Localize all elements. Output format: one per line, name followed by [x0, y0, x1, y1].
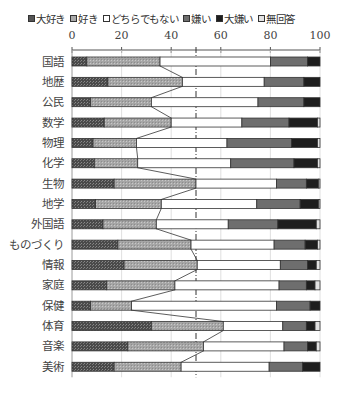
bar-segment	[305, 240, 317, 249]
bar-segment	[181, 362, 269, 371]
bar-segment	[151, 98, 258, 107]
category-label: 保健	[42, 299, 65, 313]
bar-segment	[242, 118, 289, 127]
x-tick-label: 80	[263, 29, 277, 42]
bar-segment	[308, 342, 317, 351]
bar-segment	[306, 281, 315, 290]
bar-segment	[283, 322, 307, 331]
bar-segment	[191, 240, 274, 249]
bar-segment	[72, 301, 91, 310]
bar-segment	[114, 362, 181, 371]
bar-segment	[91, 98, 152, 107]
bar-segment	[258, 98, 304, 107]
bar-segment	[72, 199, 96, 208]
bar-segment	[277, 179, 307, 188]
bar-segment	[128, 342, 204, 351]
bar-segment	[280, 261, 307, 270]
bar-segment	[277, 301, 310, 310]
bar-segment	[171, 118, 242, 127]
bar-segment	[318, 159, 320, 168]
bar-segment	[72, 77, 108, 86]
category-label: 公民	[42, 95, 64, 109]
bar-segment	[270, 57, 307, 66]
category-label: 国語	[42, 55, 65, 69]
bar-segment	[108, 77, 182, 86]
bar-segment	[279, 281, 306, 290]
bar-segment	[151, 322, 223, 331]
x-tick-label: 100	[310, 29, 331, 42]
bar-segment	[318, 240, 320, 249]
bar-segment	[72, 179, 114, 188]
bar-segment	[72, 261, 124, 270]
bar-segment	[72, 159, 94, 168]
bar-segment	[72, 138, 93, 147]
bar-segment	[72, 240, 118, 249]
bar-segment	[274, 240, 305, 249]
category-label: 家庭	[42, 278, 65, 292]
bar-segment	[197, 261, 280, 270]
bar-segment	[93, 138, 136, 147]
category-label: 化学	[42, 156, 64, 170]
category-label: 物理	[42, 136, 65, 150]
bar-segment	[304, 77, 320, 86]
bar-segment	[284, 342, 308, 351]
bar-segment	[114, 179, 196, 188]
bar-segment	[96, 199, 162, 208]
bar-segment	[91, 301, 132, 310]
bar-segment	[291, 138, 317, 147]
bar-segment	[316, 342, 320, 351]
bar-segment	[196, 179, 277, 188]
bar-segment	[203, 342, 284, 351]
bar-segment	[72, 220, 103, 229]
bar-segment	[72, 362, 114, 371]
bar-segment	[310, 301, 320, 310]
bar-segment	[103, 220, 156, 229]
category-label: ものづくり	[9, 238, 64, 252]
bar-segment	[72, 322, 151, 331]
stacked-bar-chart: 020406080100 国語地歴公民数学物理化学生物地学外国語ものづくり情報家…	[0, 0, 343, 394]
bar-segment	[304, 98, 320, 107]
category-label: 数学	[42, 116, 64, 130]
bar-segment	[223, 322, 283, 331]
bar-segment	[289, 118, 318, 127]
bar-segment	[316, 261, 320, 270]
bar-segment	[306, 322, 315, 331]
bar-segment	[138, 159, 231, 168]
bar-segment	[227, 138, 291, 147]
bar-segment	[306, 179, 318, 188]
category-label: 体育	[42, 319, 64, 333]
bar-segment	[104, 118, 171, 127]
bar-segment	[300, 199, 319, 208]
bar-segment	[156, 220, 228, 229]
bar-segment	[175, 281, 279, 290]
bar-segment	[264, 77, 304, 86]
bar-segment	[94, 159, 137, 168]
bar-segment	[160, 57, 270, 66]
category-labels: 国語地歴公民数学物理化学生物地学外国語ものづくり情報家庭保健体育音楽美術	[9, 55, 65, 374]
bar-segment	[136, 138, 227, 147]
bar-segment	[303, 362, 320, 371]
bar-segment	[319, 199, 320, 208]
cumulative-connector-lines	[132, 66, 224, 362]
category-label: 外国語	[31, 217, 65, 231]
bar-segment	[124, 261, 197, 270]
bar-segment	[228, 220, 278, 229]
x-tick-label: 60	[214, 29, 228, 42]
category-label: 情報	[42, 258, 65, 272]
bar-segment	[318, 138, 320, 147]
bar-segment	[132, 301, 277, 310]
category-label: 美術	[42, 360, 65, 374]
bar-segment	[308, 57, 320, 66]
bar-segment	[72, 342, 128, 351]
bar-segment	[269, 362, 302, 371]
bar-segment	[72, 98, 91, 107]
bar-segment	[319, 179, 320, 188]
x-tick-label: 20	[115, 29, 129, 42]
bar-segment	[182, 77, 264, 86]
bar-segment	[315, 322, 320, 331]
bar-segment	[315, 281, 320, 290]
bar-segment	[107, 281, 175, 290]
category-label: 地学	[42, 197, 64, 211]
bar-segment	[278, 220, 316, 229]
bar-segment	[257, 199, 300, 208]
